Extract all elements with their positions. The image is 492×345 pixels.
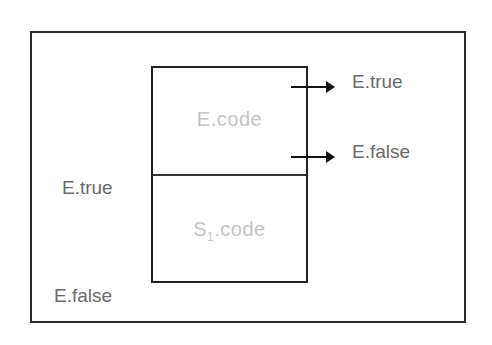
true-exit-arrow-icon (291, 86, 333, 88)
exit-label-false: E.false (352, 141, 410, 163)
block-divider (153, 174, 306, 176)
code-block-box: E.code S1.code (151, 66, 308, 283)
s1-code-label: S1.code (153, 218, 306, 244)
left-label-true: E.true (62, 177, 113, 199)
e-code-label: E.code (153, 108, 306, 131)
false-exit-arrow-icon (291, 156, 333, 158)
exit-label-true: E.true (352, 71, 403, 93)
left-label-false: E.false (54, 285, 112, 307)
